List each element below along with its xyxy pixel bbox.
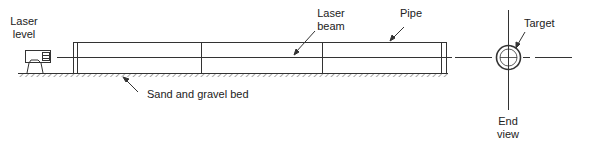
bed-leader xyxy=(126,80,138,92)
leader-arrows xyxy=(123,27,525,92)
label-line: level xyxy=(4,28,44,41)
sand-gravel-bed-label: Sand and gravel bed xyxy=(147,88,249,101)
target-leader xyxy=(518,32,525,44)
pipe-leader xyxy=(393,27,404,38)
sand-gravel-bed xyxy=(18,74,448,78)
target-label: Target xyxy=(524,17,555,30)
laser-level-label: Laser level xyxy=(4,15,44,41)
label-line: Laser xyxy=(313,7,349,20)
label-line: beam xyxy=(313,20,349,33)
end-view-label: End view xyxy=(492,115,524,141)
label-line: Laser xyxy=(4,15,44,28)
beam-leader xyxy=(296,31,315,52)
label-line: view xyxy=(492,128,524,141)
laser-beam-label: Laser beam xyxy=(313,7,349,33)
label-line: End xyxy=(492,115,524,128)
laser-level-icon xyxy=(26,51,51,74)
pipe-label: Pipe xyxy=(400,7,422,20)
